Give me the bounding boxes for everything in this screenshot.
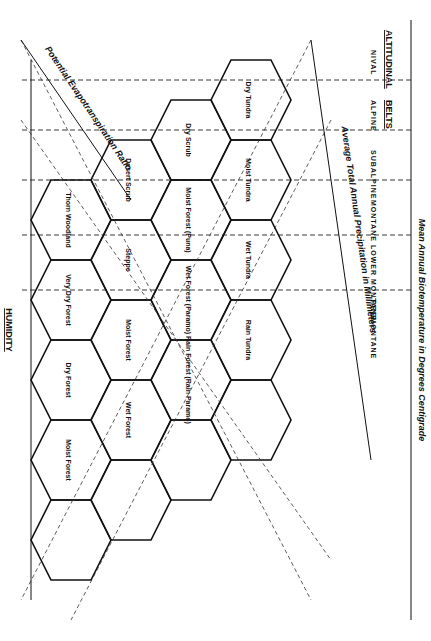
svg-text:Wet Tundra: Wet Tundra [245,241,252,279]
svg-text:Moist Forest: Moist Forest [65,439,72,481]
svg-text:Rain Forest (Rain Paramo): Rain Forest (Rain Paramo) [184,336,192,424]
figure-caption-strip: FIGURE 24.17 Holdridge system for classi… [405,0,431,641]
altitudinal-heading: ALTITUDINAL [384,30,394,89]
svg-text:Rain Tundra: Rain Tundra [245,320,252,360]
svg-text:Wet Forest (Paramo): Wet Forest (Paramo) [184,266,192,334]
belts-heading: BELTS [384,100,394,129]
svg-text:Very Dry Forest: Very Dry Forest [64,274,72,326]
svg-text:Moist Forest: Moist Forest [125,319,132,361]
svg-text:Dry Scrub: Dry Scrub [184,123,192,156]
life-zone-diagram: Mean Annual Biotemperature in Degrees Ce… [0,0,431,641]
svg-text:Dry Forest: Dry Forest [64,362,72,398]
svg-text:HUMIDITY: HUMIDITY [4,308,14,352]
svg-text:Dry Tundra: Dry Tundra [244,82,252,119]
svg-text:ALPINE: ALPINE [370,100,377,132]
precipitation-axis: Average Total Annual Precipitation in Mi… [311,40,378,460]
svg-text:Moist Forest (Puna): Moist Forest (Puna) [184,187,192,252]
rotated-diagram-frame: Mean Annual Biotemperature in Degrees Ce… [0,0,431,641]
pet-axis: Potential Evapotranspiration Ratio [21,40,134,200]
svg-text:Steppe: Steppe [124,248,132,271]
svg-text:SUBALPINE: SUBALPINE [370,150,377,199]
svg-text:Desert Scrub: Desert Scrub [125,158,132,202]
diagonal-guides [21,40,331,620]
holdridge-figure: Mean Annual Biotemperature in Degrees Ce… [0,0,431,641]
svg-text:Thorn Woodland: Thorn Woodland [65,192,72,247]
altitudinal-belt-labels: NIVAL ALPINE SUBALPINE MONTANE LOWER MON… [370,50,377,359]
svg-text:Wet Forest: Wet Forest [125,402,132,439]
svg-text:PREMONTANE: PREMONTANE [370,300,377,359]
svg-text:MONTANE: MONTANE [370,200,377,242]
svg-text:Moist Tundra: Moist Tundra [245,158,252,202]
humidity-provinces-scale: HUMIDITY [4,60,31,600]
svg-text:NIVAL: NIVAL [370,50,377,75]
